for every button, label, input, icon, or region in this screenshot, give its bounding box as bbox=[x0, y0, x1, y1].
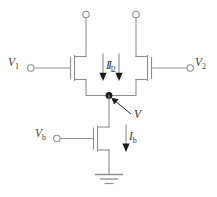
wire-source-2-to-node bbox=[110, 80, 136, 96]
i1-arrow-head bbox=[99, 73, 106, 81]
v-pointer-head bbox=[111, 98, 118, 105]
label-v1: V1 bbox=[8, 56, 19, 71]
label-vb: Vb bbox=[35, 127, 46, 142]
terminal-drain-1[interactable] bbox=[83, 11, 89, 17]
label-i2: I2 bbox=[107, 59, 116, 74]
terminal-gate-2[interactable] bbox=[187, 65, 193, 71]
circuit-canvas: V1 I1 V2 I2 V bbox=[0, 0, 217, 197]
terminal-gate-b[interactable] bbox=[54, 135, 60, 141]
wire-source-1-to-node bbox=[86, 80, 108, 96]
ib-arrow-head bbox=[122, 144, 129, 153]
terminal-gate-1[interactable] bbox=[28, 65, 34, 71]
circuit-diagram: V1 I1 V2 I2 V bbox=[0, 0, 217, 197]
terminal-drain-2[interactable] bbox=[133, 11, 139, 17]
v-pointer-line bbox=[114, 100, 131, 114]
label-v-node: V bbox=[134, 108, 143, 120]
label-v2: V2 bbox=[195, 56, 206, 71]
label-ib: Ib bbox=[128, 130, 137, 145]
i2-arrow-head bbox=[115, 73, 122, 81]
